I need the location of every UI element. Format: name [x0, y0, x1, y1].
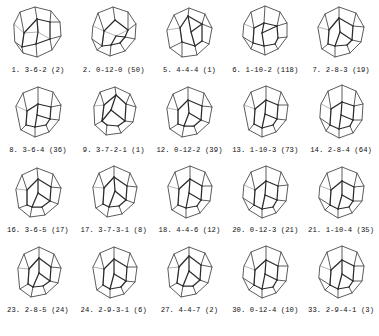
polyhedron-caption: 7. 2-8-3 (19) [312, 66, 369, 75]
polyhedron-drawing-6 [231, 2, 299, 65]
polyhedron-caption: 5. 4-4-4 (1) [163, 66, 216, 75]
polyhedron-caption: 17. 3-7-3-1 (8) [81, 226, 147, 235]
polyhedron-drawing-21 [307, 162, 375, 225]
polyhedron-drawing-17 [80, 162, 148, 225]
polyhedron-caption: 21. 1-10-4 (35) [308, 226, 374, 235]
polyhedron-drawing-30 [231, 242, 299, 305]
polyhedron-cell: 18. 4-4-6 (12) [152, 162, 228, 242]
polyhedron-caption: 6. 1-10-2 (118) [232, 66, 298, 75]
polyhedron-cell: 27. 4-4-7 (2) [152, 242, 228, 322]
polyhedron-drawing-33 [307, 242, 375, 305]
polyhedron-cell: 23. 2-8-5 (24) [0, 242, 76, 322]
polyhedron-caption: 14. 2-8-4 (64) [310, 146, 372, 155]
polyhedron-drawing-1 [4, 2, 72, 65]
polyhedron-drawing-20 [231, 162, 299, 225]
polyhedron-drawing-8 [4, 82, 72, 145]
polyhedron-caption: 8. 3-6-4 (36) [9, 146, 66, 155]
polyhedron-cell: 8. 3-6-4 (36) [0, 82, 76, 162]
polyhedron-cell: 24. 2-9-3-1 (6) [76, 242, 152, 322]
polyhedron-drawing-18 [155, 162, 223, 225]
polyhedron-cell: 16. 3-6-5 (17) [0, 162, 76, 242]
polyhedron-caption: 20. 0-12-3 (21) [232, 226, 298, 235]
polyhedra-figure: 1. 3-6-2 (2) [0, 0, 379, 336]
polyhedron-drawing-7 [307, 2, 375, 65]
polyhedron-cell: 17. 3-7-3-1 (8) [76, 162, 152, 242]
polyhedron-caption: 23. 2-8-5 (24) [7, 306, 69, 315]
polyhedron-cell: 9. 3-7-2-1 (1) [76, 82, 152, 162]
polyhedron-drawing-2 [80, 2, 148, 65]
polyhedron-cell: 2. 0-12-0 (50) [76, 2, 152, 82]
polyhedron-cell: 12. 0-12-2 (39) [152, 82, 228, 162]
polyhedron-caption: 2. 0-12-0 (50) [83, 66, 145, 75]
polyhedron-caption: 16. 3-6-5 (17) [7, 226, 69, 235]
polyhedron-cell: 7. 2-8-3 (19) [303, 2, 379, 82]
polyhedron-caption: 13. 1-10-3 (73) [232, 146, 298, 155]
polyhedron-drawing-13 [231, 82, 299, 145]
polyhedron-cell: 1. 3-6-2 (2) [0, 2, 76, 82]
polyhedron-caption: 18. 4-4-6 (12) [159, 226, 221, 235]
polyhedron-caption: 27. 4-4-7 (2) [161, 306, 218, 315]
polyhedron-drawing-16 [4, 162, 72, 225]
polyhedron-drawing-9 [80, 82, 148, 145]
polyhedron-cell: 14. 2-8-4 (64) [303, 82, 379, 162]
polyhedron-cell: 6. 1-10-2 (118) [227, 2, 303, 82]
polyhedron-caption: 33. 2-9-4-1 (3) [308, 306, 374, 315]
polyhedron-caption: 9. 3-7-2-1 (1) [83, 146, 145, 155]
polyhedron-drawing-5 [155, 2, 223, 65]
polyhedron-cell: 33. 2-9-4-1 (3) [303, 242, 379, 322]
polyhedron-caption: 12. 0-12-2 (39) [156, 146, 222, 155]
polyhedron-cell: 30. 0-12-4 (10) [227, 242, 303, 322]
polyhedron-caption: 30. 0-12-4 (10) [232, 306, 298, 315]
polyhedron-cell: 13. 1-10-3 (73) [227, 82, 303, 162]
polyhedra-grid: 1. 3-6-2 (2) [0, 0, 379, 322]
polyhedron-drawing-24 [80, 242, 148, 305]
polyhedron-caption: 1. 3-6-2 (2) [11, 66, 64, 75]
polyhedron-drawing-14 [307, 82, 375, 145]
polyhedron-drawing-12 [155, 82, 223, 145]
polyhedron-drawing-27 [155, 242, 223, 305]
polyhedron-cell: 20. 0-12-3 (21) [227, 162, 303, 242]
polyhedron-cell: 21. 1-10-4 (35) [303, 162, 379, 242]
polyhedron-caption: 24. 2-9-3-1 (6) [81, 306, 147, 315]
polyhedron-drawing-23 [4, 242, 72, 305]
polyhedron-cell: 5. 4-4-4 (1) [152, 2, 228, 82]
